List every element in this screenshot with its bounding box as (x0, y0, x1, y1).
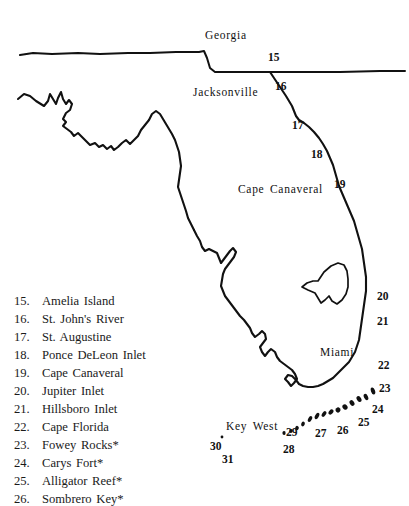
legend-item: 22.Cape Florida (14, 420, 204, 438)
legend-item-number: 23. (14, 438, 42, 453)
legend-item: 21.Hillsboro Inlet (14, 402, 204, 420)
legend-item: 17.St. Augustine (14, 330, 204, 348)
legend-item: 24.Carys Fort* (14, 456, 204, 474)
map-label-cape-canaveral: Cape Canaveral (238, 183, 323, 195)
legend-item: 20.Jupiter Inlet (14, 384, 204, 402)
map-number-15: 15 (268, 51, 280, 63)
legend-item: 19.Cape Canaveral (14, 366, 204, 384)
key-island-dot (348, 399, 355, 406)
legend-item-number: 24. (14, 456, 42, 471)
legend-item-number: 22. (14, 420, 42, 435)
legend-item-label: Cape Canaveral (42, 366, 124, 381)
map-number-22: 22 (378, 359, 390, 371)
key-island-dot (334, 406, 341, 413)
key-island-dot (341, 403, 348, 410)
legend-item-number: 17. (14, 330, 42, 345)
peninsula-coastline-path (194, 72, 366, 387)
legend-item-label: St. John's River (42, 312, 124, 327)
legend-item-number: 19. (14, 366, 42, 381)
map-number-23: 23 (379, 382, 391, 394)
legend-item-number: 15. (14, 294, 42, 309)
legend-item-label: Jupiter Inlet (42, 384, 104, 399)
legend-item-number: 21. (14, 402, 42, 417)
legend-item: 16.St. John's River (14, 312, 204, 330)
legend-item-label: Cape Florida (42, 420, 109, 435)
legend-item-label: Sombrero Key* (42, 492, 124, 506)
map-number-29: 29 (286, 426, 298, 438)
key-island-dot (321, 410, 328, 417)
map-label-miami: Miami (320, 346, 354, 358)
legend-item-label: St. Augustine (42, 330, 111, 345)
map-number-19: 19 (334, 178, 346, 190)
map-label-jacksonville: Jacksonville (193, 86, 258, 98)
map-number-20: 20 (377, 290, 389, 302)
key-island-dot (363, 393, 369, 401)
map-number-30: 30 (210, 440, 222, 452)
legend-item-label: Hillsboro Inlet (42, 402, 117, 417)
map-number-18: 18 (311, 148, 323, 160)
legend-item-number: 16. (14, 312, 42, 327)
legend-item-number: 25. (14, 474, 42, 489)
legend-item: 23.Fowey Rocks* (14, 438, 204, 456)
legend-item-label: Fowey Rocks* (42, 438, 119, 453)
gulf-coast-panhandle-path (18, 92, 194, 230)
legend-list: 15.Amelia Island16.St. John's River17.St… (14, 294, 204, 506)
key-island-dot (307, 415, 313, 422)
map-number-17: 17 (292, 119, 304, 131)
map-number-16: 16 (275, 80, 287, 92)
key-island-dot (355, 395, 362, 403)
key-island-dot (300, 421, 305, 427)
map-number-24: 24 (372, 403, 384, 415)
legend-item-number: 20. (14, 384, 42, 399)
legend-item-label: Carys Fort* (42, 456, 103, 471)
map-number-27: 27 (315, 427, 327, 439)
legend-item-label: Ponce DeLeon Inlet (42, 348, 146, 363)
map-number-28: 28 (283, 443, 295, 455)
legend-item: 26.Sombrero Key* (14, 492, 204, 506)
key-island-dot (328, 408, 335, 415)
georgia-state-border-path (20, 51, 405, 72)
key-island-dot (370, 387, 376, 395)
map-label-georgia: Georgia (205, 29, 247, 41)
legend-item: 18.Ponce DeLeon Inlet (14, 348, 204, 366)
legend-item-number: 18. (14, 348, 42, 363)
key-island-dot (221, 436, 224, 439)
legend-item-number: 26. (14, 492, 42, 506)
legend-item-label: Alligator Reef* (42, 474, 122, 489)
key-island-dot (314, 412, 321, 420)
map-label-key-west: Key West (226, 420, 278, 432)
map-number-31: 31 (222, 453, 234, 465)
legend-item: 15.Amelia Island (14, 294, 204, 312)
map-number-26: 26 (337, 424, 349, 436)
lake-okeechobee-path (302, 263, 348, 304)
map-number-21: 21 (377, 315, 389, 327)
legend-item: 25.Alligator Reef* (14, 474, 204, 492)
map-number-25: 25 (358, 416, 370, 428)
legend-item-label: Amelia Island (42, 294, 115, 309)
